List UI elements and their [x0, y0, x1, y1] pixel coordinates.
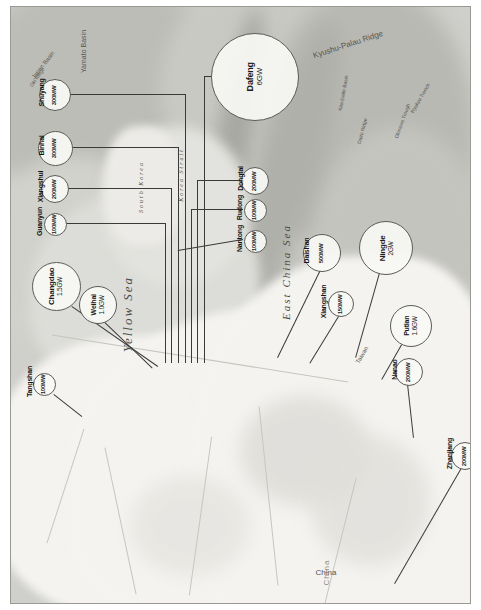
sea-label: Yellow Sea [120, 254, 136, 374]
feature-label: Yamato Basin [80, 6, 87, 107]
project-capacity-zhanjiang: 200MW [462, 446, 469, 466]
leader-line [171, 188, 172, 363]
project-capacity-binhai: 300MW [52, 138, 59, 158]
project-label-zhanjiang: Zhanjiang [446, 426, 453, 482]
leader-line [204, 76, 205, 363]
leader-line [191, 209, 192, 363]
leader-line [197, 180, 241, 181]
project-capacity-dongtai: 200MW [252, 171, 259, 191]
project-bubble-tangshan[interactable]: 100MW [33, 373, 56, 396]
project-label-guanyun: Guanyun [36, 194, 43, 250]
project-bubble-nantong[interactable]: 100MW [244, 230, 267, 253]
sea-label: East China Sea [280, 212, 292, 332]
project-bubble-nanao[interactable]: 200MW [395, 358, 423, 386]
project-capacity-nanao: 200MW [406, 362, 413, 382]
project-bubble-weihai[interactable]: Weihai1.0GW [79, 286, 117, 324]
leader-line [65, 223, 165, 224]
project-bubble-changdao[interactable]: Changdao1.5GW [32, 262, 81, 311]
project-capacity-guanyun: 100MW [52, 214, 59, 234]
project-bubble-guanyun[interactable]: 100MW [44, 213, 67, 236]
project-label-daishan: Daishan [303, 223, 310, 279]
country-label-china: China [322, 533, 331, 605]
sea-label: South Korea [138, 127, 144, 247]
project-bubble-xiangshan[interactable]: 150MW [328, 291, 354, 317]
project-capacity-tangshan: 100MW [41, 374, 48, 394]
project-capacity-rudong: 100MW [252, 200, 259, 220]
project-capacity-dafeng: Dafeng6GW [245, 62, 265, 91]
sea-label: Korea Strait [178, 115, 184, 235]
project-capacity-nantong: 100MW [252, 231, 259, 251]
project-label-tangshan: Tangshan [26, 354, 33, 410]
leader-line [165, 223, 166, 363]
leader-line [197, 180, 198, 363]
project-bubble-dafeng[interactable]: Dafeng6GW [211, 33, 299, 121]
project-label-nantong: Nantong [236, 211, 243, 267]
project-capacity-weihai: Weihai1.0GW [90, 294, 106, 315]
project-bubble-zhanjiang[interactable]: 200MW [451, 442, 471, 470]
leader-line [185, 94, 186, 363]
project-capacity-xiangshan: 150MW [338, 294, 345, 314]
project-label-xiangshan: Xiangshan [320, 274, 327, 330]
project-capacity-putian: Putian1.6GW [403, 316, 419, 336]
relief-blob [130, 476, 250, 576]
project-bubble-ningde[interactable]: Ningde2GW [359, 221, 413, 275]
project-bubble-dongtai[interactable]: 200MW [241, 167, 269, 195]
project-capacity-daishan: 500MW [319, 243, 326, 263]
leader-line [204, 76, 211, 77]
project-bubble-rudong[interactable]: 100MW [244, 199, 267, 222]
project-capacity-shuyang: 300MW [52, 85, 59, 105]
project-capacity-changdao: Changdao1.5GW [48, 267, 65, 305]
project-capacity-ningde: Ningde2GW [378, 235, 395, 261]
project-capacity-xiangshui: 200MW [52, 179, 59, 199]
project-bubble-xiangshui[interactable]: 200MW [41, 175, 69, 203]
leader-line [67, 188, 171, 189]
project-label-nanao: Nanao [391, 342, 398, 398]
map-screenshot: 300MWShuyang300MWBinhai200MWXiangshui100… [0, 0, 481, 610]
landmass-korea [105, 126, 185, 246]
leader-line [70, 147, 178, 148]
relief-basemap: 300MWShuyang300MWBinhai200MWXiangshui100… [10, 6, 471, 604]
